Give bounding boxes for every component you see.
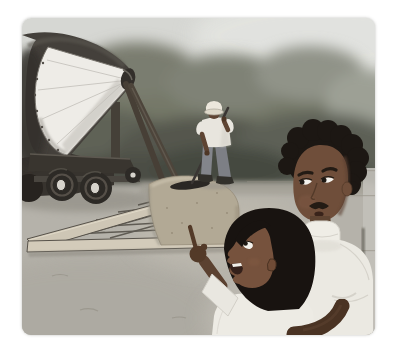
- father-ear: [342, 182, 352, 196]
- wall-board-line: [350, 195, 375, 196]
- worker-boot: [198, 174, 213, 182]
- worker-boot: [216, 176, 234, 185]
- wheel-hub: [130, 172, 135, 177]
- worker-hand: [204, 150, 209, 155]
- wheel-hub: [90, 182, 99, 193]
- storybook-illustration: An old-fashioned cement mixer on wheels …: [22, 18, 375, 335]
- storybook-illustration-frame: An old-fashioned cement mixer on wheels …: [22, 18, 375, 335]
- child-thumb: [201, 244, 207, 250]
- child-cheek: [248, 258, 260, 266]
- hard-hat-brim: [205, 109, 224, 115]
- child-ear: [267, 259, 276, 271]
- wheel-hub: [56, 179, 65, 190]
- page-background: An old-fashioned cement mixer on wheels …: [0, 0, 402, 358]
- mixer-support-post: [111, 102, 120, 166]
- worker-hand: [221, 116, 226, 121]
- father-mouth: [314, 211, 323, 216]
